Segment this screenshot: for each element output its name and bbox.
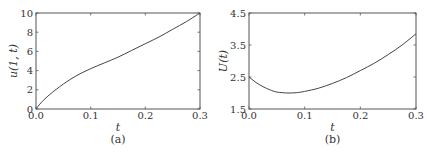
- y-axis-label-b: U(t): [217, 50, 230, 72]
- y-ticks-b: 1.52.53.54.5: [230, 8, 416, 115]
- y-tick-label: 4.5: [230, 8, 246, 19]
- data-line-a: [36, 13, 200, 109]
- y-tick-label: 8: [27, 27, 33, 38]
- x-ticks-b: 0.00.10.20.3: [241, 13, 424, 121]
- x-tick-label: 0.3: [408, 110, 424, 121]
- x-tick-label: 0.1: [83, 110, 99, 121]
- y-tick-label: 0: [27, 104, 33, 115]
- y-tick-label: 6: [27, 46, 33, 57]
- chart-a: 0.00.10.20.3 0246810 t u(1, t) (a): [7, 8, 208, 147]
- y-tick-label: 4: [27, 65, 33, 76]
- data-line-b: [249, 34, 416, 93]
- y-tick-label: 1.5: [230, 104, 246, 115]
- x-tick-label: 0.2: [137, 110, 153, 121]
- plot-area-b: [249, 13, 416, 109]
- caption-a: (a): [110, 133, 125, 146]
- chart-b: 0.00.10.20.3 1.52.53.54.5 t U(t) (b): [217, 8, 424, 147]
- x-tick-label: 0.3: [192, 110, 208, 121]
- y-tick-label: 10: [20, 8, 33, 19]
- y-tick-label: 2.5: [230, 72, 246, 83]
- y-tick-label: 3.5: [230, 40, 246, 51]
- y-axis-label-a: u(1, t): [7, 44, 20, 78]
- x-tick-label: 0.1: [297, 110, 313, 121]
- x-tick-label: 0.2: [352, 110, 368, 121]
- figure: 0.00.10.20.3 0246810 t u(1, t) (a) 0.00.…: [0, 0, 427, 155]
- caption-b: (b): [325, 133, 341, 146]
- y-tick-label: 2: [27, 84, 33, 95]
- x-ticks-a: 0.00.10.20.3: [28, 13, 208, 121]
